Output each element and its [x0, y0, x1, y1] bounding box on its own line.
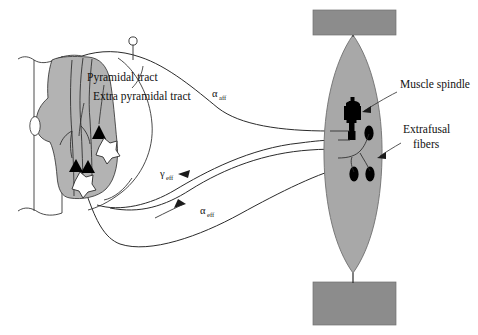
gamma-efferent-arrowhead	[178, 170, 190, 178]
dorsal-root-ganglion-icon	[129, 37, 137, 45]
svg-text:eff: eff	[207, 211, 215, 218]
extrafusal-fiber-2	[349, 167, 358, 182]
muscle-group	[313, 10, 396, 325]
alpha-afferent-path-lower	[97, 140, 338, 208]
cord-outline-bottom	[18, 208, 62, 215]
alpha-efferent-path	[88, 166, 348, 247]
alpha-efferent-arrowhead	[174, 199, 186, 208]
alpha-afferent-label: α aff	[212, 88, 227, 101]
alpha-efferent-label: α eff	[200, 205, 215, 218]
gamma-efferent-label: γ eff	[159, 168, 174, 181]
figure-root: Pyramidal tract Extra pyramidal tract α …	[0, 0, 478, 335]
extra-pyramidal-tract-label: Extra pyramidal tract	[93, 90, 192, 103]
upper-tendon-block	[313, 10, 396, 35]
spinal-cord-group	[18, 37, 137, 215]
muscle-belly	[324, 35, 382, 273]
svg-text:α: α	[212, 88, 218, 99]
central-canal	[30, 117, 40, 136]
extrafusal-fiber-3	[365, 167, 374, 182]
alpha-efferent-arrow-shaft	[155, 204, 184, 218]
lower-tendon-block	[313, 282, 396, 325]
extrafusal-fiber-1	[364, 126, 373, 141]
extrafusal-fibers-label-line2: fibers	[413, 138, 440, 150]
pyramidal-tract-label: Pyramidal tract	[87, 71, 158, 84]
svg-text:α: α	[200, 205, 206, 216]
svg-text:aff: aff	[219, 94, 227, 101]
reflex-arc-diagram: Pyramidal tract Extra pyramidal tract α …	[0, 0, 478, 335]
svg-text:γ: γ	[159, 168, 165, 179]
muscle-spindle-label: Muscle spindle	[400, 78, 470, 91]
svg-text:eff: eff	[166, 174, 174, 181]
extrafusal-fibers-label-line1: Extrafusal	[403, 123, 450, 135]
